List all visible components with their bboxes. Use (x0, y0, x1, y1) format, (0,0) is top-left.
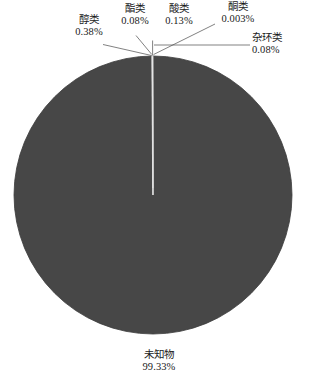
pie-label-acid-name: 酸类 (152, 3, 206, 15)
pie-label-unknown-value: 99.33% (113, 361, 205, 373)
pie-chart: 醇类 0.38% 酯类 0.08% 酸类 0.13% 酮类 0.003% 杂环类… (0, 0, 318, 381)
pie-label-heterocycle-value: 0.08% (252, 44, 314, 56)
pie-label-alcohol-value: 0.38% (60, 26, 118, 38)
leader-lines (103, 24, 250, 56)
leader-line-ketone (154, 24, 215, 55)
pie-label-acid-value: 0.13% (152, 15, 206, 27)
pie-label-ketone-value: 0.003% (207, 13, 269, 25)
pie-label-ketone: 酮类 0.003% (207, 1, 269, 25)
leader-line-ester (136, 36, 152, 55)
pie-chart-canvas (0, 0, 318, 381)
pie-label-acid: 酸类 0.13% (152, 3, 206, 27)
pie-label-ketone-name: 酮类 (207, 1, 269, 13)
pie-label-heterocycle-name: 杂环类 (252, 32, 314, 44)
pie-label-heterocycle: 杂环类 0.08% (252, 32, 314, 56)
leader-line-alcohol (103, 45, 152, 56)
pie-label-unknown-name: 未知物 (113, 349, 205, 361)
pie-label-unknown: 未知物 99.33% (113, 349, 205, 373)
